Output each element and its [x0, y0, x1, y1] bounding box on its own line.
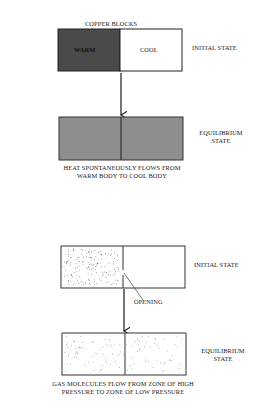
- initial-state-label: INITIAL STATE: [192, 44, 237, 52]
- heat-caption: HEAT SPONTANEOUSLY FLOWS FROM WARM BODY …: [40, 164, 204, 180]
- gas-initial-container: [61, 246, 185, 288]
- gas-equilibrium-state-label: EQUILIBRIUM STATE: [192, 347, 254, 363]
- cool-label: COOL: [140, 46, 158, 54]
- equilibrium-blocks: [59, 117, 183, 160]
- warm-label: WARM: [74, 46, 95, 54]
- gas-caption: GAS MOLECULES FLOW FROM ZONE OF HIGH PRE…: [28, 380, 218, 396]
- gas-equilibrium-container: [62, 333, 186, 375]
- opening-label: OPENING: [134, 298, 163, 306]
- gas-initial-state-label: INITIAL STATE: [194, 261, 239, 269]
- copper-blocks-title: COPPER BLOCKS: [85, 20, 137, 28]
- equilibrium-state-label: EQUILIBRIUM STATE: [190, 129, 252, 145]
